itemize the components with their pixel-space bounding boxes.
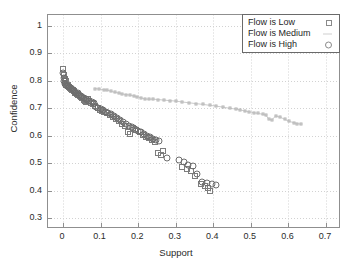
x-axis-tick-label: 0.2 <box>131 231 144 241</box>
y-axis-tick-label: 0.7 <box>18 102 42 112</box>
y-axis-tick-label: 0.4 <box>18 185 42 195</box>
x-axis-tick-label: 0.5 <box>244 231 257 241</box>
chart-legend[interactable]: Flow is Low Flow is Medium Flow is High <box>242 14 340 53</box>
x-axis-tick-label: 0.3 <box>168 231 181 241</box>
y-axis-tick <box>48 218 52 219</box>
legend-label-flow-high: Flow is High <box>248 39 297 50</box>
y-axis-tick-label: 0.3 <box>18 212 42 222</box>
figure-container: 00.10.20.30.40.50.60.7 0.30.40.50.60.70.… <box>0 0 352 273</box>
y-axis-tick <box>48 26 52 27</box>
legend-marker-line-icon <box>323 33 332 34</box>
y-axis-tick-label: 0.9 <box>18 47 42 57</box>
y-axis-tick-label: 0.5 <box>18 157 42 167</box>
y-axis-tick <box>48 191 52 192</box>
y-axis-tick <box>48 108 52 109</box>
x-axis-tick-label: 0.7 <box>319 231 332 241</box>
x-axis-tick-label: 0.1 <box>93 231 106 241</box>
x-axis-tick <box>288 223 289 227</box>
x-axis-tick <box>176 223 177 227</box>
x-axis-tick <box>63 223 64 227</box>
y-axis-tick <box>48 53 52 54</box>
legend-item-flow-high[interactable]: Flow is High <box>243 39 339 50</box>
y-axis-tick <box>48 163 52 164</box>
x-axis-label: Support <box>0 247 352 258</box>
y-axis-tick-label: 1 <box>18 20 42 30</box>
y-axis-tick <box>48 136 52 137</box>
x-axis-tick-label: 0 <box>60 231 65 241</box>
legend-label-flow-low: Flow is Low <box>248 17 295 28</box>
y-axis-tick <box>48 81 52 82</box>
x-axis-tick-label: 0.4 <box>206 231 219 241</box>
legend-item-flow-low[interactable]: Flow is Low <box>243 17 339 28</box>
x-axis-tick <box>251 223 252 227</box>
y-axis-tick-label: 0.8 <box>18 75 42 85</box>
x-axis-tick <box>101 223 102 227</box>
legend-label-flow-medium: Flow is Medium <box>248 28 311 39</box>
x-axis-tick <box>213 223 214 227</box>
y-axis-tick-label: 0.6 <box>18 130 42 140</box>
legend-item-flow-medium[interactable]: Flow is Medium <box>243 28 339 39</box>
legend-marker-circle-icon <box>325 41 332 48</box>
x-axis-tick <box>138 223 139 227</box>
y-axis-label: Confidence <box>8 69 19 149</box>
x-axis-tick <box>326 223 327 227</box>
legend-marker-square-icon <box>326 20 332 26</box>
x-axis-tick-label: 0.6 <box>281 231 294 241</box>
